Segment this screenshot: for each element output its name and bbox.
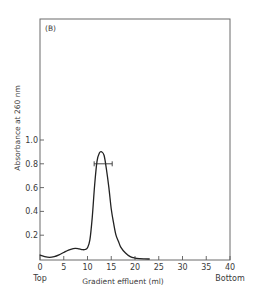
y-tick-label: 1.0	[25, 136, 38, 145]
plot-frame	[40, 19, 230, 260]
x-tick-label: 40	[225, 263, 235, 272]
chromatography-chart: (B) 0510152025303540 0.20.40.60.81.0 Gra…	[0, 0, 254, 299]
x-axis-left-annotation: Top	[32, 274, 47, 283]
x-tick-label: 25	[154, 263, 164, 272]
x-tick-label: 20	[130, 263, 140, 272]
x-tick-label: 10	[82, 263, 92, 272]
x-axis-title: Gradient effluent (ml)	[82, 277, 164, 286]
y-axis-title: Absorbance at 260 nm	[13, 85, 22, 170]
y-tick-label: 0.8	[25, 160, 38, 169]
x-axis-right-annotation: Bottom	[215, 274, 245, 283]
y-axis-ticks: 0.20.40.60.81.0	[25, 136, 44, 240]
x-tick-label: 35	[201, 263, 211, 272]
x-tick-label: 0	[37, 263, 42, 272]
y-tick-label: 0.2	[25, 231, 38, 240]
y-tick-label: 0.4	[25, 207, 38, 216]
x-tick-label: 30	[177, 263, 187, 272]
x-tick-label: 15	[106, 263, 116, 272]
panel-label: (B)	[45, 24, 56, 33]
y-tick-label: 0.6	[25, 184, 38, 193]
x-tick-label: 5	[61, 263, 66, 272]
absorbance-curve	[40, 152, 149, 259]
